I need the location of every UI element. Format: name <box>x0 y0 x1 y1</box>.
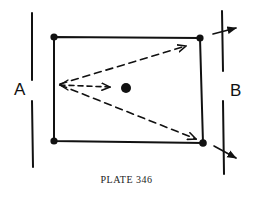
wall-b-lower <box>223 101 224 174</box>
center-dot <box>121 83 131 93</box>
dashed-ray-upper <box>60 46 186 84</box>
label-b: B <box>230 81 241 100</box>
plate-diagram: A B <box>0 0 253 198</box>
dashed-ray-lower <box>60 85 196 139</box>
exit-arrow-upper <box>213 28 236 34</box>
exit-arrow-lower <box>214 146 236 158</box>
corner-dot-bl <box>50 137 57 144</box>
corner-dot-tr <box>196 34 203 41</box>
wall-a-lower <box>32 101 33 167</box>
corner-dot-br <box>199 139 207 147</box>
corner-dot-tl <box>50 33 57 40</box>
wall-b-upper <box>222 11 223 71</box>
label-a: A <box>14 80 26 99</box>
dashed-ray-center <box>60 85 110 87</box>
plate-caption: PLATE 346 <box>0 174 253 185</box>
